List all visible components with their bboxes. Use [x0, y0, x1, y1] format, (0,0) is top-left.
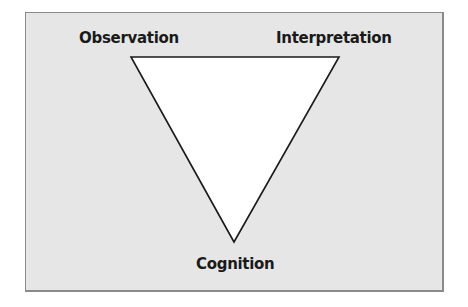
vertex-label-observation: Observation [79, 29, 179, 47]
inverted-triangle [131, 57, 339, 242]
vertex-label-cognition: Cognition [196, 255, 274, 273]
vertex-label-interpretation: Interpretation [276, 29, 392, 47]
